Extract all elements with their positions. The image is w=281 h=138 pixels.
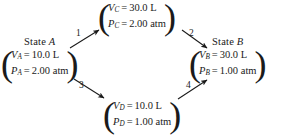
value-pressure-b: 1.00 atm — [220, 65, 257, 76]
state-a-label-prefix: State — [24, 36, 46, 47]
state-row-volume-c: VC=30.0 L — [108, 1, 166, 17]
state-values-b: VB=30.0 L PB=1.00 atm — [199, 48, 256, 81]
state-row-volume-a: VA=10.0 L — [11, 48, 68, 64]
value-pressure-d: 1.00 atm — [135, 116, 172, 127]
value-volume-b: 30.0 L — [220, 49, 247, 60]
state-row-volume-d: VD=10.0 L — [113, 99, 171, 115]
paren-group-c: ( VC=30.0 L PC=2.00 atm ) — [99, 1, 175, 34]
state-block-b: State B ( VB=30.0 L PB=1.00 atm ) — [190, 36, 265, 81]
subscript-d: D — [119, 104, 124, 112]
state-row-volume-b: VB=30.0 L — [199, 48, 256, 64]
value-volume-d: 10.0 L — [135, 100, 162, 111]
state-b-label-var: B — [237, 36, 244, 47]
value-pressure-a: 2.00 atm — [32, 65, 69, 76]
state-values-c: VC=30.0 L PC=2.00 atm — [108, 1, 166, 34]
arrow-label-3: 3 — [79, 80, 84, 90]
value-pressure-c: 2.00 atm — [129, 18, 166, 29]
paren-group-b: ( VB=30.0 L PB=1.00 atm ) — [190, 48, 265, 81]
state-row-pressure-c: PC=2.00 atm — [108, 17, 166, 33]
state-b-label-prefix: State — [212, 36, 234, 47]
state-block-a: State A ( VA=10.0 L PA=2.00 atm ) — [2, 36, 77, 81]
equals-sign: = — [22, 49, 32, 60]
state-row-pressure-d: PD=1.00 atm — [113, 115, 171, 131]
equals-sign: = — [119, 18, 129, 29]
state-values-a: VA=10.0 L PA=2.00 atm — [11, 48, 68, 81]
state-a-label-var: A — [49, 36, 56, 47]
paren-group-d: ( VD=10.0 L PD=1.00 atm ) — [104, 99, 180, 132]
equals-sign: = — [119, 2, 129, 13]
equals-sign: = — [125, 100, 135, 111]
state-row-pressure-a: PA=2.00 atm — [11, 64, 68, 80]
state-values-d: VD=10.0 L PD=1.00 atm — [113, 99, 171, 132]
equals-sign: = — [210, 65, 220, 76]
subscript-d: D — [119, 121, 124, 129]
value-volume-c: 30.0 L — [129, 2, 156, 13]
state-block-d: ( VD=10.0 L PD=1.00 atm ) — [104, 99, 180, 132]
equals-sign: = — [22, 65, 32, 76]
state-block-c: ( VC=30.0 L PC=2.00 atm ) — [99, 1, 175, 34]
equals-sign: = — [125, 116, 135, 127]
state-row-pressure-b: PB=1.00 atm — [199, 64, 256, 80]
paren-group-a: ( VA=10.0 L PA=2.00 atm ) — [2, 48, 77, 81]
value-volume-a: 10.0 L — [32, 49, 59, 60]
equals-sign: = — [210, 49, 220, 60]
thermodynamic-state-diagram: 1 2 3 4 ( VC=30.0 L PC=2.00 atm ) State … — [0, 0, 281, 138]
